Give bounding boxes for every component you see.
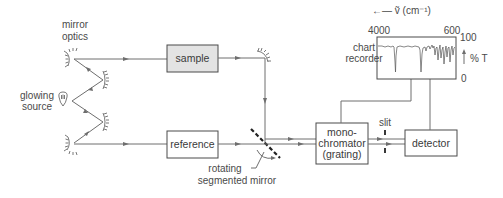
arrow-icon — [235, 56, 241, 60]
chart-recorder-label-line1: chart — [353, 42, 375, 53]
y-axis-label: % T — [470, 53, 488, 64]
mirror-optics-label-line1: mirror — [62, 19, 89, 30]
mirror-optics-label-line2: optics — [62, 31, 88, 42]
sample-box: sample — [167, 45, 218, 72]
wavenumber-axis-label: ←— ṽ (cm⁻¹) — [372, 5, 431, 16]
arrow-icon — [298, 142, 304, 146]
mono-label-line3: (grating) — [322, 148, 361, 160]
rotating-mirror-leader — [251, 152, 264, 168]
arrow-icon — [377, 137, 383, 141]
glowing-source-label-line1: glowing — [20, 90, 54, 101]
detector-box: detector — [405, 130, 457, 156]
chart-recorder: chart recorder ←— ṽ (cm⁻¹) 4000 600 100 … — [345, 5, 487, 84]
arrow-icon — [123, 142, 129, 146]
glowing-source-label-line2: source — [22, 101, 52, 112]
sample-label: sample — [176, 52, 210, 64]
reference-box: reference — [167, 131, 218, 158]
rotation-arrow-icon — [257, 150, 273, 158]
arrow-icon — [123, 57, 129, 61]
rotating-mirror-label-line1: rotating — [208, 163, 241, 174]
mirror-bottom-left-icon — [64, 135, 77, 155]
arrow-icon — [235, 142, 241, 146]
x-left-tick: 4000 — [368, 25, 391, 36]
arrow-icon — [462, 49, 466, 54]
arrow-icon — [263, 98, 267, 104]
detector-label: detector — [412, 137, 450, 149]
chart-recorder-label-line2: recorder — [345, 53, 383, 64]
source-beams — [72, 59, 103, 143]
spectrometer-diagram: mirror optics glowing source — [0, 0, 503, 198]
arrow-icon — [271, 156, 276, 160]
reference-label: reference — [170, 138, 215, 150]
mirror-top-right-icon — [257, 48, 271, 62]
glowing-source-icon — [59, 92, 67, 106]
x-right-tick: 600 — [444, 25, 461, 36]
monochromator-box: mono- chromator (grating) — [316, 123, 368, 164]
mirror-lower-right-icon — [103, 113, 109, 131]
slit-label: slit — [379, 117, 391, 128]
rotating-mirror-label-line2: segmented mirror — [198, 175, 277, 186]
y-top-tick: 100 — [460, 32, 477, 43]
mirror-top-left-icon — [64, 48, 77, 67]
arrow-icon — [288, 137, 294, 141]
arrow-icon — [386, 142, 392, 146]
y-bottom-tick: 0 — [461, 73, 467, 84]
mono-to-chart-connector — [341, 79, 411, 123]
mirror-upper-right-icon — [103, 71, 109, 89]
